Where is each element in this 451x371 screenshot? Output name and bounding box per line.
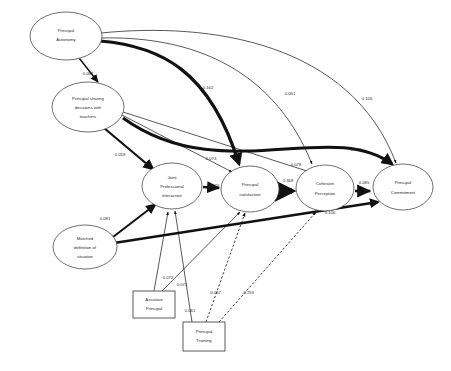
joint-professional-label-1: Joint [167, 175, 177, 180]
node-matched-definition[interactable]: Matched definition of situation [53, 225, 117, 269]
coef-sharing-cohesion: 0.078 [291, 162, 302, 167]
coef-matched-commitment: 0.106 [325, 210, 336, 215]
cohesion-perception-label-1: Cohesion [316, 181, 335, 186]
principal-sharing-label-3: teachers [80, 114, 96, 119]
node-principal-commitment[interactable]: Principal Commitment [373, 164, 433, 210]
node-group: Principal Autonomy Principal sharing dec… [30, 12, 433, 351]
principal-autonomy-label-2: Autonomy [56, 37, 76, 42]
principal-autonomy-label-1: Principal [58, 28, 75, 33]
coef-sharing-commitment: 0.273 [351, 147, 362, 152]
coef-sharing-satisfaction: 0.073 [206, 156, 217, 161]
coef-joint-satisfaction: 0.076 [209, 183, 220, 188]
assistant-principal-label-2: Principal [146, 306, 163, 311]
node-principal-autonomy[interactable]: Principal Autonomy [30, 12, 102, 60]
edge-sharing-to-joint [104, 128, 154, 170]
edge-training-to-satisfaction [206, 213, 245, 322]
node-principal-training[interactable]: Principal Training [183, 322, 225, 351]
principal-satisfaction-label-2: satisfaction [239, 192, 261, 197]
coef-autonomy-satisfaction: 0.162 [203, 85, 214, 90]
joint-professional-label-3: interaction [162, 193, 182, 198]
principal-satisfaction-shape[interactable] [221, 166, 279, 212]
coef-training-cohesion: -0.253 [242, 290, 255, 295]
principal-training-shape[interactable] [183, 322, 225, 351]
assistant-principal-label-1: Assistant [145, 297, 163, 302]
coef-autonomy-sharing: 0.087 [83, 71, 94, 76]
coef-training-joint: 0.061 [185, 308, 196, 313]
principal-autonomy-shape[interactable] [30, 12, 102, 60]
edge-matched-to-joint [113, 204, 156, 237]
coef-matched-joint: 0.081 [100, 216, 111, 221]
edge-autonomy-to-cohesion [101, 38, 312, 164]
edge-assistant-to-satisfaction [162, 212, 240, 291]
principal-sharing-label-1: Principal sharing [72, 96, 104, 101]
matched-definition-label-3: situation [77, 254, 94, 259]
cohesion-perception-label-2: Perception [315, 191, 336, 196]
edge-training-to-cohesion [219, 212, 316, 322]
matched-definition-label-2: definition of [74, 245, 97, 250]
node-cohesion-perception[interactable]: Cohesion Perception [296, 165, 354, 211]
coef-cohesion-commitment: 0.085 [359, 180, 370, 185]
edge-autonomy-to-sharing [79, 58, 98, 82]
matched-definition-label-1: Matched [77, 236, 94, 241]
joint-professional-label-2: Professional [160, 184, 184, 189]
principal-training-label-1: Principal [196, 329, 213, 334]
node-assistant-principal[interactable]: Assistant Principal [133, 291, 175, 318]
principal-commitment-shape[interactable] [373, 164, 433, 210]
principal-training-label-2: Training [196, 338, 212, 343]
path-diagram-svg: Principal Autonomy Principal sharing dec… [0, 0, 451, 371]
node-principal-sharing[interactable]: Principal sharing decisions with teacher… [52, 82, 124, 132]
coef-autonomy-commitment: 0.106 [362, 96, 373, 101]
assistant-principal-shape[interactable] [133, 291, 175, 318]
edge-training-to-joint [175, 211, 192, 322]
principal-commitment-label-2: Commitment [391, 190, 416, 195]
coef-assistant-joint: 0.072 [163, 275, 174, 280]
principal-sharing-label-2: decisions with [75, 105, 102, 110]
principal-commitment-label-1: Principal [395, 180, 412, 185]
principal-satisfaction-label-1: Principal [242, 182, 259, 187]
coef-autonomy-cohesion: 0.051 [285, 91, 296, 96]
coef-satisfaction-cohesion: 0.368 [283, 178, 294, 183]
edge-sharing-to-cohesion [123, 112, 310, 172]
path-diagram-canvas: Principal Autonomy Principal sharing dec… [0, 0, 451, 371]
node-principal-satisfaction[interactable]: Principal satisfaction [221, 166, 279, 212]
coef-assistant-satisfaction: 0.071 [177, 282, 188, 287]
coef-training-satisfaction: -0.057 [209, 290, 222, 295]
node-joint-professional[interactable]: Joint Professional interaction [142, 163, 202, 209]
coef-sharing-joint: 0.059 [115, 152, 126, 157]
cohesion-perception-shape[interactable] [296, 165, 354, 211]
